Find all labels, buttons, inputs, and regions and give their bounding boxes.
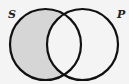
shaded-region-s-only <box>0 0 129 84</box>
set-label-s: S <box>8 9 16 20</box>
set-label-p: P <box>117 9 125 20</box>
venn-svg <box>0 0 129 84</box>
venn-diagram: S P <box>0 0 129 84</box>
